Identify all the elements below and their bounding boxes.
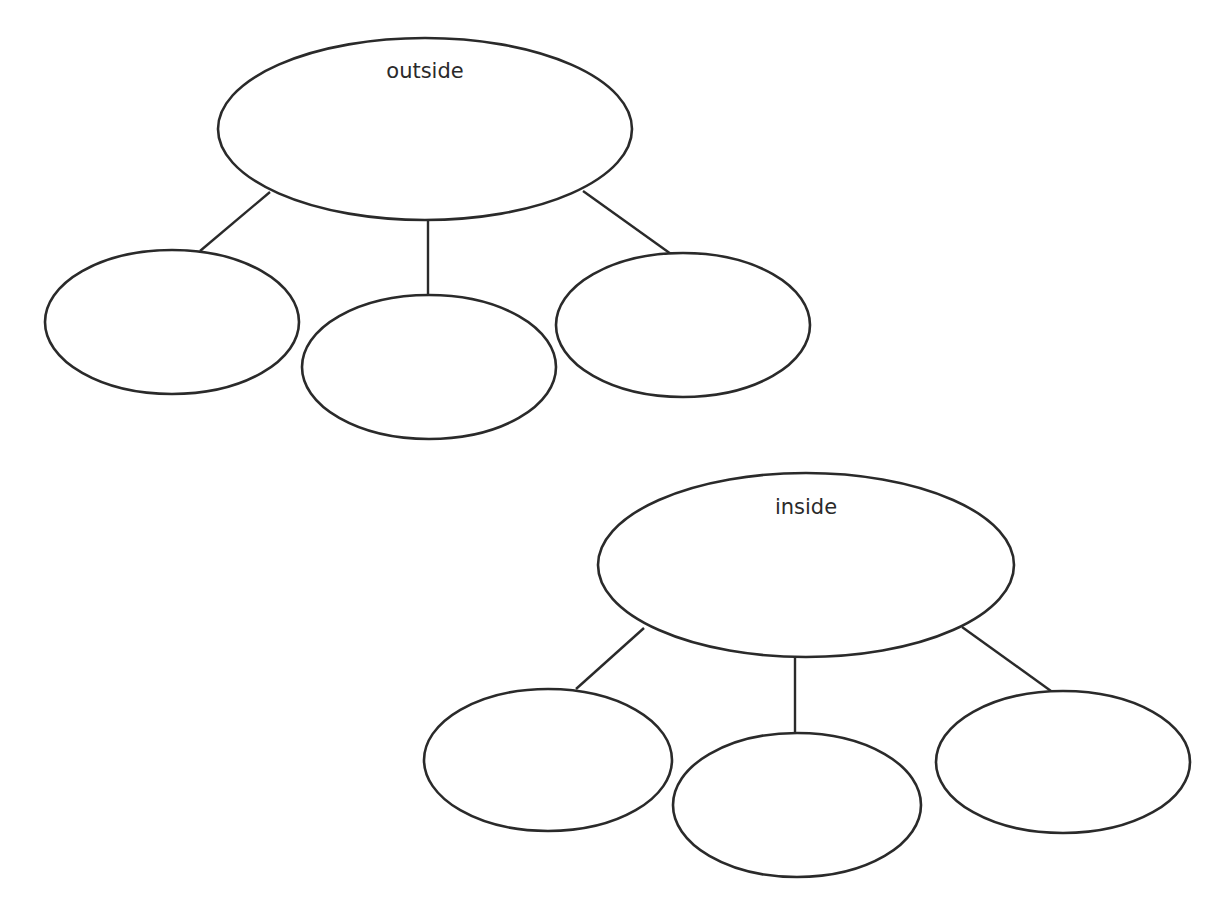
child-node-outside-right bbox=[556, 253, 810, 397]
tree-inside: inside bbox=[424, 473, 1190, 877]
edge-inside-left bbox=[576, 628, 644, 689]
child-node-outside-middle bbox=[302, 295, 556, 439]
child-node-inside-middle bbox=[673, 733, 921, 877]
edge-inside-right bbox=[962, 627, 1051, 691]
child-node-inside-right bbox=[936, 691, 1190, 833]
tree-outside: outside bbox=[45, 38, 810, 439]
tree-diagram: outside inside bbox=[0, 0, 1230, 909]
child-node-inside-left bbox=[424, 689, 672, 831]
edge-outside-left bbox=[200, 192, 270, 251]
root-label-inside: inside bbox=[775, 495, 837, 519]
root-label-outside: outside bbox=[386, 59, 463, 83]
edge-outside-right bbox=[583, 191, 671, 254]
child-node-outside-left bbox=[45, 250, 299, 394]
